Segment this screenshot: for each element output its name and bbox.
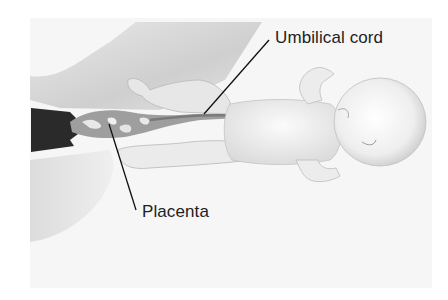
- placenta-label: Placenta: [142, 202, 209, 222]
- mother-lower-thigh: [30, 150, 113, 242]
- birth-canal: [31, 108, 78, 152]
- baby-head: [334, 78, 426, 166]
- baby-upper-arm: [299, 67, 334, 104]
- baby-torso: [224, 100, 341, 165]
- diagram-figure: Umbilical cord Placenta: [0, 0, 448, 300]
- umbilical-cord-label: Umbilical cord: [275, 28, 383, 48]
- baby-lower-arm: [296, 160, 340, 182]
